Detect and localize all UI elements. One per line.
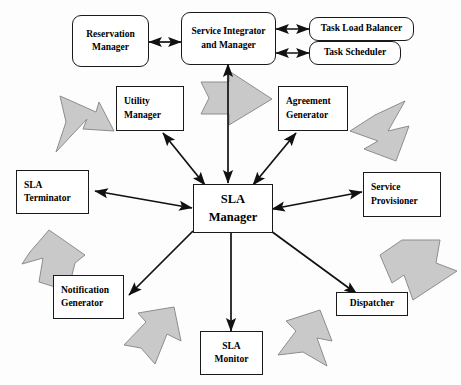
node-reservation-manager-line1: Reservation (86, 28, 135, 41)
node-service-integrator-line2: and Manager (201, 39, 256, 52)
node-agreement-generator[interactable]: Agreement Generator (278, 86, 348, 131)
node-agreement-generator-line1: Agreement (286, 95, 331, 108)
node-utility-manager[interactable]: Utility Manager (116, 86, 184, 131)
connector-sla-manager-to-dispatcher (271, 231, 357, 294)
connector-sla-manager-to-agreement-generator (253, 133, 296, 185)
node-sla-monitor-line1: SLA (222, 340, 240, 353)
node-utility-manager-line1: Utility (124, 95, 150, 108)
node-dispatcher-label: Dispatcher (350, 297, 394, 310)
node-sla-monitor-line2: Monitor (215, 353, 249, 366)
node-sla-terminator-line1: SLA (24, 179, 42, 192)
node-sla-monitor[interactable]: SLA Monitor (200, 331, 263, 375)
connector-sla-manager-to-sla-terminator (95, 191, 192, 208)
node-utility-manager-line2: Manager (124, 109, 161, 122)
node-sla-manager-line1: SLA (221, 191, 245, 209)
connector-sla-manager-to-notification-generator (129, 231, 193, 295)
node-service-integrator-line1: Service Integrator (191, 25, 265, 38)
node-task-load-balancer[interactable]: Task Load Balancer (309, 17, 414, 41)
node-notification-generator-line2: Generator (61, 297, 103, 310)
node-service-provisioner-line2: Provisioner (371, 195, 418, 208)
node-sla-terminator[interactable]: SLA Terminator (16, 170, 89, 214)
node-sla-manager[interactable]: SLA Manager (193, 184, 273, 233)
node-service-integrator-and-manager[interactable]: Service Integrator and Manager (181, 12, 276, 65)
node-task-scheduler-label: Task Scheduler (324, 46, 386, 59)
node-task-load-balancer-label: Task Load Balancer (321, 22, 402, 35)
node-notification-generator-line1: Notification (61, 284, 109, 297)
node-sla-manager-line2: Manager (209, 209, 258, 227)
node-sla-terminator-line2: Terminator (24, 192, 71, 205)
connector-sla-manager-to-service-provisioner (272, 192, 362, 209)
connector-sla-manager-to-utility-manager (163, 133, 205, 185)
node-service-provisioner-line1: Service (371, 181, 401, 194)
node-notification-generator[interactable]: Notification Generator (53, 275, 124, 319)
sla-architecture-diagram: Reservation Manager Service Integrator a… (0, 0, 461, 385)
node-task-scheduler[interactable]: Task Scheduler (309, 41, 401, 65)
node-agreement-generator-line2: Generator (286, 109, 328, 122)
node-reservation-manager-line2: Manager (92, 41, 129, 54)
node-reservation-manager[interactable]: Reservation Manager (72, 15, 149, 67)
node-dispatcher[interactable]: Dispatcher (336, 292, 408, 316)
node-service-provisioner[interactable]: Service Provisioner (363, 172, 441, 217)
